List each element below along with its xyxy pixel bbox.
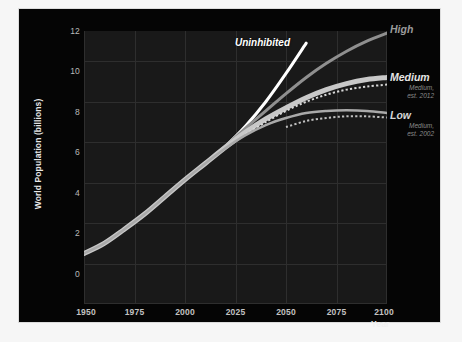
legend-sublabel-line2: est. 2012 [390,92,434,100]
x-tick-label: 1950 [76,307,96,317]
legend-sublabel-line1: Medium, [390,122,434,130]
legend-label-medium: Medium [390,71,430,83]
y-tick-label: 8 [34,107,80,117]
legend-sublabel-medium-2002: Medium, est. 2002 [390,122,434,138]
annotation-uninhibited: Uninhibited [235,37,290,48]
chart-series-line [286,116,387,127]
chart-series-line [84,33,387,253]
y-tick-label: 12 [34,26,80,36]
y-tick-label: 2 [34,228,80,238]
x-tick-label: 2000 [175,307,195,317]
x-axis-title: Year [371,319,389,329]
chart-series-line [84,43,306,253]
x-tick-label: 2025 [226,307,246,317]
x-tick-label: 2075 [327,307,347,317]
plot-area [84,31,387,304]
x-tick-label: 1975 [125,307,145,317]
x-axis-ticks: 1950 1975 2000 2025 2050 2075 2100 [84,307,387,323]
legend-sublabel-line1: Medium, [390,84,434,92]
screenshot-root: World Population (billions) 12 10 8 6 4 … [0,0,462,342]
legend-label-low: Low [390,109,411,121]
legend-sublabel-medium-2012: Medium, est. 2012 [390,84,434,100]
y-tick-label: 10 [34,66,80,76]
y-tick-label: 4 [34,188,80,198]
chart-figure-panel: World Population (billions) 12 10 8 6 4 … [19,9,440,322]
x-tick-label: 2050 [276,307,296,317]
y-axis-ticks: 12 10 8 6 4 2 0 [28,31,80,304]
legend-label-high: High [390,23,413,35]
y-tick-label: 0 [34,269,80,279]
legend-sublabel-line2: est. 2002 [390,130,434,138]
x-tick-label: 2100 [374,307,394,317]
y-tick-label: 6 [34,147,80,157]
chart-series-svg [84,31,387,304]
chart-series-line [84,78,387,254]
chart-series-line [84,110,387,253]
